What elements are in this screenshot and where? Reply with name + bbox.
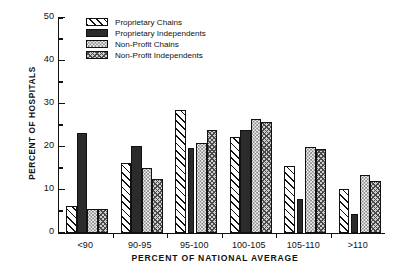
bar — [121, 163, 132, 233]
bar — [175, 110, 186, 233]
bar — [152, 179, 163, 233]
bar — [188, 148, 195, 233]
bar — [316, 149, 327, 233]
bar — [142, 168, 153, 233]
legend-item: Non-Profit Independents — [86, 50, 236, 60]
y-tick-minor — [58, 38, 63, 39]
bar — [207, 130, 218, 233]
bar — [196, 143, 207, 233]
legend-label: Non-Profit Chains — [115, 40, 179, 49]
bar — [261, 122, 272, 233]
bar — [230, 137, 241, 233]
y-tick-label: 20 — [32, 140, 54, 151]
legend-item: Proprietary Chains — [86, 17, 236, 27]
bar-chart: PERCENT OF HOSPITALS 01020304050 <9090-9… — [0, 0, 397, 269]
bar — [66, 206, 77, 233]
bar — [297, 199, 304, 233]
y-tick-major: 50 — [58, 17, 65, 18]
bar-group — [284, 18, 326, 233]
bar — [339, 189, 350, 233]
bar — [360, 175, 371, 233]
y-tick-major: 10 — [58, 189, 65, 190]
legend-swatch — [86, 29, 108, 37]
legend: Proprietary ChainsProprietary Independen… — [86, 17, 236, 61]
legend-item: Non-Profit Chains — [86, 39, 236, 49]
bar — [131, 146, 142, 233]
y-tick-minor — [58, 124, 63, 125]
y-tick-major: 30 — [58, 103, 65, 104]
bar-group — [339, 18, 381, 233]
y-tick-label: 0 — [32, 226, 54, 237]
y-tick-label: 30 — [32, 97, 54, 108]
bar — [98, 209, 109, 233]
y-tick-label: 10 — [32, 183, 54, 194]
y-tick-major: 20 — [58, 146, 65, 147]
bar — [284, 166, 295, 233]
legend-label: Proprietary Independents — [115, 29, 206, 38]
y-tick-minor — [58, 81, 63, 82]
legend-label: Non-Profit Independents — [115, 51, 203, 60]
legend-swatch — [86, 18, 108, 26]
y-tick-minor — [58, 210, 63, 211]
bar — [77, 133, 88, 233]
bar — [87, 209, 98, 233]
y-tick-label: 40 — [32, 54, 54, 65]
legend-swatch — [86, 51, 108, 59]
y-axis-top-cap — [58, 18, 63, 19]
bar — [240, 130, 251, 233]
y-tick-minor — [58, 167, 63, 168]
x-category-label: 90-95 — [113, 240, 168, 250]
legend-swatch — [86, 40, 108, 48]
x-tick — [113, 233, 114, 238]
bar — [251, 119, 262, 233]
x-category-label: 105-110 — [276, 240, 331, 250]
x-category-label: 95-100 — [167, 240, 222, 250]
x-category-label: <90 — [58, 240, 113, 250]
x-tick — [167, 233, 168, 238]
bar — [305, 147, 316, 233]
x-tick — [331, 233, 332, 238]
legend-item: Proprietary Independents — [86, 28, 236, 38]
x-axis-title: PERCENT OF NATIONAL AVERAGE — [45, 253, 385, 263]
y-axis-line — [58, 18, 59, 233]
x-category-label: >110 — [331, 240, 386, 250]
y-tick-major: 0 — [58, 232, 65, 233]
bar — [370, 181, 381, 233]
x-tick — [222, 233, 223, 238]
x-tick — [276, 233, 277, 238]
y-tick-label: 50 — [32, 11, 54, 22]
y-tick-major: 40 — [58, 60, 65, 61]
bar — [351, 214, 358, 233]
legend-label: Proprietary Chains — [115, 18, 182, 27]
x-category-label: 100-105 — [222, 240, 277, 250]
